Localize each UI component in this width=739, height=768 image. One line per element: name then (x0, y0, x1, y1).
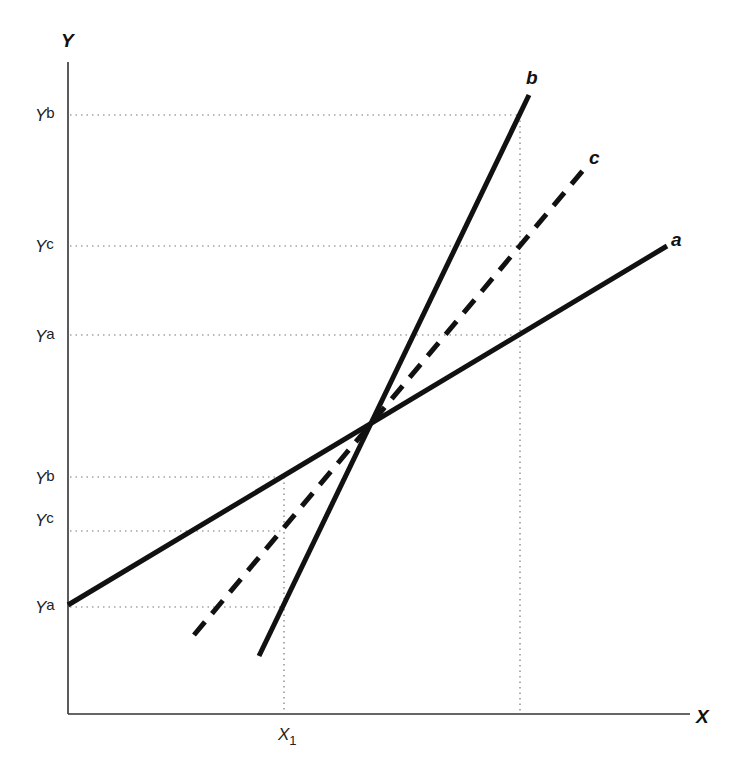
line-label-c: c (589, 147, 600, 168)
y-axis-title: Y (61, 30, 76, 51)
y-tick-yb-upper: Yb (35, 104, 55, 125)
regression-lines-diagram: Y X b c a Yb Yc Ya Yb Yc Ya X1 (0, 0, 739, 768)
y-tick-ya-upper: Ya (35, 325, 55, 346)
x-axis-title: X (695, 706, 710, 727)
y-tick-yc-upper: Yc (35, 235, 54, 256)
line-label-a: a (671, 229, 682, 250)
y-tick-yc-lower: Yc (35, 509, 54, 530)
y-tick-ya-lower: Ya (35, 596, 55, 617)
line-label-b: b (526, 67, 538, 88)
line-b (259, 95, 529, 656)
y-tick-yb-lower: Yb (35, 467, 55, 488)
guide-lines-lower (70, 477, 284, 713)
x-tick-x1: X1 (277, 725, 297, 748)
line-c (194, 168, 585, 635)
guide-lines-upper (70, 115, 520, 713)
